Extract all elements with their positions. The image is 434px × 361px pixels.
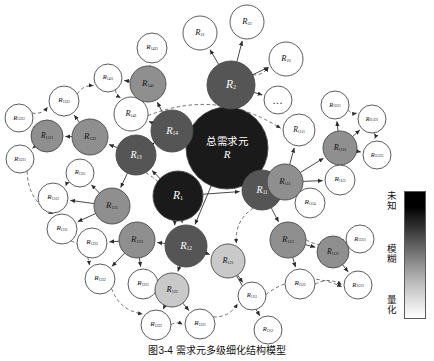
refinement-edge [109,144,117,147]
refinement-edge [254,92,262,95]
requirement-node-R1111[interactable] [283,114,315,146]
correlation-edge [171,323,183,325]
requirement-node-R1311[interactable] [47,214,77,244]
requirement-node-R1422[interactable] [137,33,167,63]
requirement-node-R1221[interactable] [185,309,215,339]
correlation-edge [213,304,237,317]
correlation-edge [77,86,93,94]
correlation-edge [236,208,253,243]
refinement-edge [290,148,295,165]
requirement-node-R1114[interactable] [295,188,325,218]
requirement-node-R12[interactable] [165,225,207,267]
requirement-node-R13211[interactable] [6,145,34,173]
refinement-edge [74,115,79,122]
refinement-edge [353,130,360,137]
legend-label-fuzzy: 模糊 [384,244,400,265]
requirement-node-R23[interactable] [269,42,303,76]
refinement-edge [303,181,323,182]
legend-label-unknown: 未知 [384,191,400,212]
requirement-node-R1421[interactable] [94,64,122,92]
refinement-edge [139,258,140,267]
correlation-edge [315,281,342,285]
node-circle-group [5,5,391,344]
refinement-edge [206,253,210,254]
requirement-node-R111221[interactable] [358,105,386,133]
requirement-node-R1230[interactable] [77,228,107,258]
requirement-node-R1321[interactable] [31,120,63,152]
requirement-node-R1121[interactable] [317,236,349,268]
requirement-node-R1312[interactable] [38,183,68,213]
legend-gradient-bar [404,191,426,319]
correlation-edge [116,90,121,98]
requirement-node-R1211[interactable] [238,282,266,310]
refinement-edge [78,214,96,222]
refinement-edge [149,121,153,122]
requirement-node-R132[interactable] [72,119,108,155]
ellipsis-node-label: … [272,94,284,106]
requirement-node-R13[interactable] [116,135,156,175]
refinement-edge [271,208,278,222]
requirement-node-R11211[interactable] [346,225,374,253]
figure-canvas: 总需求元RR1R2R21R22R23…R14R141R142R1421R1422… [0,0,434,361]
requirement-node-R11121[interactable] [321,91,349,119]
figure-caption: 图3-4 需求元多级细化结构模型 [0,340,434,361]
correlation-edge [374,133,375,139]
refinement-edge [70,200,94,203]
requirement-node-R122[interactable] [155,273,189,307]
requirement-node-R142[interactable] [130,66,166,102]
correlation-edge [348,110,356,113]
requirement-node-R1113[interactable] [325,165,355,195]
requirement-node-R111222[interactable] [363,141,391,169]
refinement-edge [357,151,361,152]
requirement-node-R1112[interactable] [323,131,357,165]
requirement-node-R112[interactable] [270,222,306,258]
refinement-edge [178,266,180,271]
requirement-node-R14[interactable] [151,110,193,152]
center-node-title: 总需求元 [206,135,248,148]
requirement-node-R1[interactable] [153,171,203,221]
requirement-node-R131[interactable] [94,188,130,224]
requirement-node-R123[interactable] [119,222,155,258]
requirement-node-R1231[interactable] [128,269,158,299]
refinement-edge [300,158,323,172]
center-node-label: 总需求元R [206,135,248,162]
requirement-node-R1222[interactable] [141,310,171,340]
requirement-node-R121[interactable] [211,244,245,278]
refinement-edge [343,265,348,272]
center-node-symbol: R [206,148,248,162]
requirement-node-R2[interactable] [207,61,255,109]
refinement-edge [91,185,99,193]
refinement-edge [121,173,128,187]
requirement-node-R1122[interactable] [285,269,315,299]
requirement-node-R141[interactable] [114,97,148,131]
refinement-edge [210,50,219,65]
requirement-node-R1322[interactable] [49,86,79,116]
refinement-edge [112,253,125,266]
refinement-edge [183,303,189,310]
correlation-edge [32,107,48,113]
refinement-edge [124,80,130,81]
requirement-node-R1232[interactable] [85,264,115,294]
refinement-edge [337,121,338,131]
diagram-edges [0,0,434,361]
refinement-edge [237,41,242,62]
refinement-edge [163,305,165,309]
requirement-node-R1313[interactable] [66,159,94,187]
requirement-node-R21[interactable] [183,16,217,50]
legend-label-quantified: 量化 [384,295,400,316]
requirement-node-R22[interactable] [230,5,264,39]
correlation-edge [66,183,70,187]
refinement-edge [293,257,296,267]
refinement-edge [157,242,165,243]
requirement-node-R11212[interactable] [344,271,372,299]
refinement-edge [109,241,119,242]
requirement-node-R13212[interactable] [5,104,33,132]
shading-legend: 未知 模糊 量化 [382,191,434,317]
refinement-edge [157,102,162,112]
refinement-edge [305,245,315,248]
